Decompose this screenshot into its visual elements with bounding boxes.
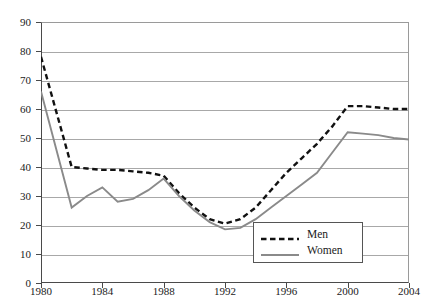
x-axis-tick-mark — [164, 283, 165, 288]
legend-item-men: Men — [261, 227, 356, 243]
y-axis-tick-label: 0 — [0, 278, 31, 289]
y-axis-tick-label: 90 — [0, 17, 31, 28]
chart-legend: MenWomen — [253, 222, 363, 263]
line-chart-figure: 0102030405060708090 19801984198819921996… — [0, 0, 422, 305]
series-line-women — [41, 92, 409, 230]
series-line-men — [41, 57, 409, 224]
legend-item-women: Women — [261, 243, 356, 259]
x-axis-tick-mark — [348, 283, 349, 288]
y-axis-tick-label: 60 — [0, 104, 31, 115]
y-axis-tick-label: 10 — [0, 249, 31, 260]
legend-label: Women — [307, 245, 342, 257]
legend-swatch-women-icon — [261, 246, 299, 256]
legend-swatch-men-icon — [261, 230, 299, 240]
clipped-caption-text — [0, 0, 422, 3]
y-axis-tick-label: 70 — [0, 75, 31, 86]
legend-label: Men — [307, 229, 328, 241]
x-axis-tick-mark — [102, 283, 103, 288]
x-axis-tick-mark — [225, 283, 226, 288]
y-axis-tick-label: 20 — [0, 220, 31, 231]
y-axis-tick-label: 50 — [0, 133, 31, 144]
x-axis-tick-mark — [41, 283, 42, 288]
x-axis-tick-mark — [409, 283, 410, 288]
y-axis-tick-label: 80 — [0, 46, 31, 57]
y-axis-tick-label: 30 — [0, 191, 31, 202]
y-axis-tick-label: 40 — [0, 162, 31, 173]
x-axis-tick-mark — [286, 283, 287, 288]
